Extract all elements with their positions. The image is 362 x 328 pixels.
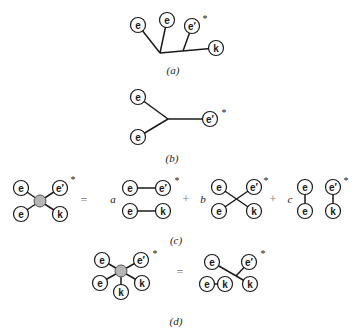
node-k: k [247,204,262,219]
svg-text:e: e [127,183,133,194]
svg-text:e′: e′ [329,182,338,193]
term-c: e e e′ * k [298,175,349,219]
svg-text:e′: e′ [159,183,168,194]
svg-text:k: k [247,279,253,290]
plus-sign: + [270,192,277,206]
interaction-blob [115,265,127,277]
svg-text:e: e [18,183,24,194]
node-k: k [243,277,258,292]
node-e: e [14,181,29,196]
node-e: e [212,180,227,195]
node-e: e [131,18,146,33]
node-e: e [298,180,313,195]
svg-text:e′: e′ [245,257,254,268]
edge [160,48,216,53]
svg-text:k: k [160,206,166,217]
asterisk: * [264,175,269,186]
node-e: e [298,204,313,219]
node-e-prime: e′ [326,180,341,195]
caption-b: (b) [166,152,179,165]
result-diagram-d: e e′ * e k k [200,248,266,292]
node-k: k [135,276,150,291]
node-e-prime: e′ [185,19,200,34]
node-e: e [14,207,29,222]
svg-text:e: e [302,206,308,217]
node-k: k [156,204,171,219]
diagram-c: e e′ e k * = a e e′ * e k + b e e′ * e k [14,174,349,248]
svg-text:e: e [302,182,308,193]
interaction-blob [34,195,46,207]
diagram-b: e e e′ * (b) [131,90,227,166]
node-e: e [131,90,146,105]
node-k: k [114,285,129,300]
node-e: e [131,130,146,145]
svg-text:e: e [204,279,210,290]
node-k: k [218,277,233,292]
asterisk: * [71,174,76,185]
diagram-canvas: e e e′ * k (a) e e e′ * (b) e e′ e k * = [0,0,362,328]
node-k: k [326,204,341,219]
node-e: e [93,276,108,291]
term-a: e e′ * e k [123,175,180,219]
svg-text:e: e [135,92,141,103]
asterisk: * [222,107,227,118]
caption-d: (d) [170,315,183,328]
svg-text:e′: e′ [188,21,197,32]
plus-sign: + [183,192,190,206]
node-e: e [200,277,215,292]
equals-sign: = [177,265,184,279]
svg-text:e: e [216,206,222,217]
coefficient-c: c [288,193,293,205]
svg-text:e′: e′ [56,183,65,194]
node-e-prime: e′ [53,181,68,196]
svg-text:e: e [99,255,105,266]
node-k: k [209,41,224,56]
caption-a: (a) [167,64,180,77]
blob-diagram-d: e e′ * e k k [93,248,158,300]
svg-text:k: k [57,209,63,220]
svg-text:k: k [222,279,228,290]
blob-diagram-c: e e′ e k * [14,174,76,222]
coefficient-a: a [110,193,116,205]
node-e: e [160,13,175,28]
svg-text:e: e [127,206,133,217]
svg-text:k: k [251,206,257,217]
svg-text:k: k [139,278,145,289]
diagram-d: e e′ * e k k = e e′ * e k k (d) [93,248,266,328]
node-e-prime: e′ [247,180,262,195]
asterisk: * [261,248,266,259]
svg-text:e′: e′ [250,182,259,193]
svg-text:k: k [118,287,124,298]
svg-text:e: e [18,209,24,220]
node-e-prime: e′ [134,253,149,268]
node-k: k [53,207,68,222]
svg-text:e′: e′ [137,255,146,266]
diagram-svg: e e e′ * k (a) e e e′ * (b) e e′ e k * = [0,0,362,328]
node-e-prime: e′ [242,255,257,270]
svg-text:e: e [216,182,222,193]
node-e: e [123,181,138,196]
svg-text:e: e [135,20,141,31]
svg-text:e: e [97,278,103,289]
svg-text:e: e [209,257,215,268]
equals-sign: = [81,193,88,207]
asterisk: * [203,13,208,24]
coefficient-b: b [200,193,206,205]
asterisk: * [344,175,349,186]
diagram-a: e e e′ * k (a) [131,13,224,78]
node-e: e [212,204,227,219]
svg-text:k: k [213,43,219,54]
node-e-prime: e′ [156,181,171,196]
svg-text:e′: e′ [206,114,215,125]
svg-text:e: e [135,132,141,143]
node-e: e [95,253,110,268]
caption-c: (c) [170,234,183,247]
asterisk: * [175,175,180,186]
node-e-prime: e′ [203,112,218,127]
node-e: e [123,204,138,219]
node-e: e [205,255,220,270]
term-b: e e′ * e k [212,175,269,219]
svg-text:e: e [164,15,170,26]
asterisk: * [153,248,158,259]
svg-text:k: k [330,206,336,217]
